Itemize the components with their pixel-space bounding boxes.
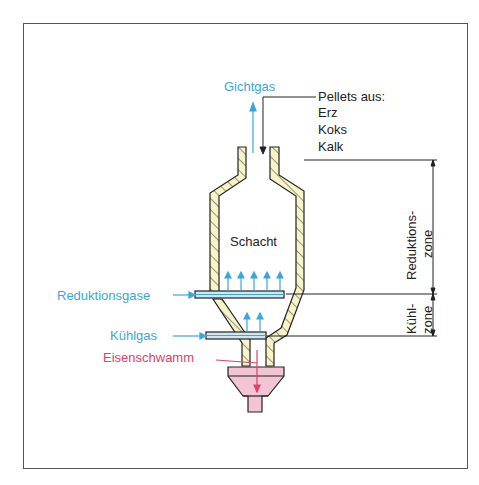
label-reduction-gas: Reduktionsgase (57, 288, 150, 303)
label-top-gas: Gichtgas (224, 79, 276, 94)
label-zone-reduction-2: zone (420, 230, 435, 258)
shaft-wall-right (266, 147, 304, 366)
shaft-wall-left (210, 147, 246, 292)
cooling-gas-up-arrows (244, 313, 263, 331)
label-feed-erz: Erz (318, 105, 338, 120)
top-gas-arrow (250, 103, 256, 153)
label-product: Eisenschwamm (103, 350, 194, 365)
shaft-furnace-diagram: Gichtgas Pellets aus: Erz Koks Kalk Scha… (0, 0, 479, 485)
label-zone-cooling-1: Kühl- (404, 304, 419, 334)
reduction-gas-up-arrows (225, 272, 283, 290)
label-feed-kalk: Kalk (318, 139, 344, 154)
reduction-gas-inlet-arrow (173, 292, 195, 298)
label-feed-header: Pellets aus: (318, 89, 385, 104)
label-zone-cooling-2: zone (420, 306, 435, 334)
cooling-gas-inlet-arrow (173, 333, 206, 339)
label-shaft: Schacht (230, 234, 277, 249)
label-cooling-gas: Kühlgas (110, 328, 157, 343)
feed-arrow (260, 97, 316, 154)
label-zone-reduction-1: Reduktions- (404, 211, 419, 280)
label-feed-koks: Koks (318, 122, 347, 137)
